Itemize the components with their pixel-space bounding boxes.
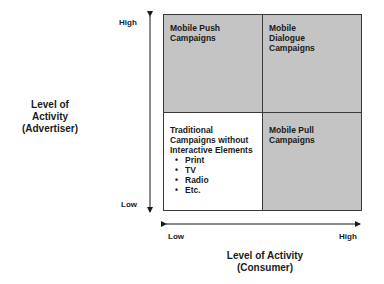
x-axis-low-label: Low [168,232,184,241]
x-axis-title-line: Level of Activity [210,250,320,262]
quadrant-label-line: Interactive Elements [170,145,256,155]
bullet-item: Print [175,155,256,165]
y-axis-title-line: Level of [10,99,90,111]
quadrant-matrix: Mobile Push Campaigns Mobile Dialogue Ca… [163,14,362,211]
y-axis-title-line: Activity [10,111,90,123]
quadrant-mobile-push: Mobile Push Campaigns [164,15,263,113]
x-axis-title: Level of Activity (Consumer) [210,250,320,274]
quadrant-label-line: Dialogue [269,33,355,43]
quadrant-label-line: Traditional [170,125,256,135]
y-axis-title-line: (Advertiser) [10,123,90,135]
x-axis-title-line: (Consumer) [210,262,320,274]
y-axis-title: Level of Activity (Advertiser) [10,99,90,135]
x-axis-high-label: High [339,232,357,241]
quadrant-label-line: Mobile Push [170,23,256,33]
quadrant-label-line: Mobile Pull Campaigns [269,125,355,145]
bullet-item: TV [175,165,256,175]
bullet-item: Etc. [175,185,256,195]
quadrant-traditional: Traditional Campaigns without Interactiv… [164,113,263,210]
quadrant-label-line: Campaigns [269,43,355,53]
y-axis-high-label: High [119,18,137,27]
bullet-list: Print TV Radio Etc. [170,155,256,195]
quadrant-label-line: Campaigns without [170,135,256,145]
quadrant-label-line: Campaigns [170,33,256,43]
quadrant-mobile-dialogue: Mobile Dialogue Campaigns [263,15,361,113]
quadrant-label-line: Mobile [269,23,355,33]
bullet-item: Radio [175,175,256,185]
y-axis-low-label: Low [121,200,137,209]
quadrant-mobile-pull: Mobile Pull Campaigns [263,113,361,210]
